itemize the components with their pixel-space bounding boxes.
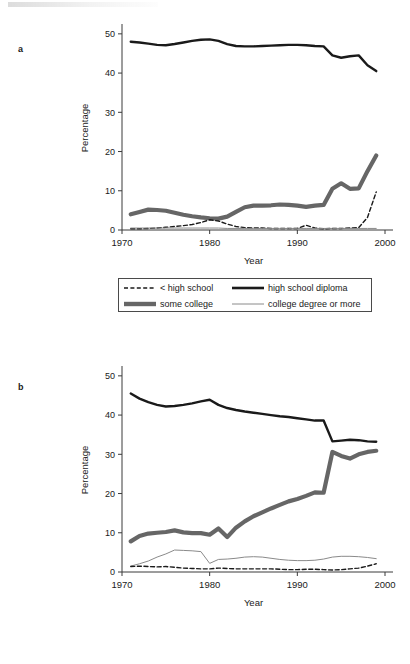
x-tick-label: 1990 [287, 579, 308, 590]
figure-container: a 010203040501970198019902000YearPercent… [0, 0, 410, 664]
series-line-college-degree-or-more [131, 550, 376, 566]
panel-a-legend: < high school high school diploma some c… [118, 278, 372, 312]
y-tick-label: 20 [105, 147, 115, 157]
y-tick-label: 30 [105, 450, 115, 460]
series-line-high-school-diploma [131, 394, 376, 442]
panel-a-plot: 010203040501970198019902000YearPercentag… [0, 8, 410, 278]
series-line-some-college [131, 451, 376, 542]
panel-b: b 010203040501970198019902000YearPercent… [0, 338, 410, 656]
y-tick-label: 20 [105, 489, 115, 499]
y-tick-label: 0 [110, 225, 115, 235]
legend-item-college-degree-or-more: college degree or more [227, 296, 373, 312]
legend-item-some-college: some college [119, 296, 227, 312]
dashed-line-swatch-icon [123, 283, 157, 293]
x-tick-label: 1970 [111, 579, 132, 590]
y-tick-label: 50 [105, 29, 115, 39]
y-tick-label: 0 [110, 567, 115, 577]
x-axis-label: Year [244, 255, 263, 266]
series-line-some-college [131, 155, 376, 218]
scan-artifact [8, 2, 158, 7]
thin-line-swatch-icon [231, 299, 265, 309]
panel-a: a 010203040501970198019902000YearPercent… [0, 8, 410, 320]
y-tick-label: 50 [105, 371, 115, 381]
x-tick-label: 2000 [374, 579, 395, 590]
legend-label: some college [160, 299, 213, 309]
series-line-high-school-diploma [131, 39, 376, 71]
legend-label: high school diploma [268, 283, 348, 293]
x-axis-label: Year [244, 597, 263, 608]
y-tick-label: 10 [105, 528, 115, 538]
y-axis-label: Percentage [79, 104, 90, 153]
x-tick-label: 1980 [199, 579, 220, 590]
x-tick-label: 1970 [111, 237, 132, 248]
gray-thick-line-swatch-icon [123, 299, 157, 309]
legend-item-high-school-diploma: high school diploma [227, 280, 373, 296]
x-tick-label: 2000 [374, 237, 395, 248]
series-line--high-school [131, 564, 376, 570]
y-tick-label: 40 [105, 410, 115, 420]
legend-label: < high school [160, 283, 213, 293]
x-tick-label: 1980 [199, 237, 220, 248]
y-tick-label: 40 [105, 68, 115, 78]
x-tick-label: 1990 [287, 237, 308, 248]
panel-b-plot: 010203040501970198019902000YearPercentag… [0, 350, 410, 625]
solid-thick-line-swatch-icon [231, 283, 265, 293]
legend-item-less-than-high-school: < high school [119, 280, 227, 296]
legend-label: college degree or more [268, 299, 361, 309]
y-tick-label: 10 [105, 186, 115, 196]
y-tick-label: 30 [105, 108, 115, 118]
y-axis-label: Percentage [79, 446, 90, 495]
